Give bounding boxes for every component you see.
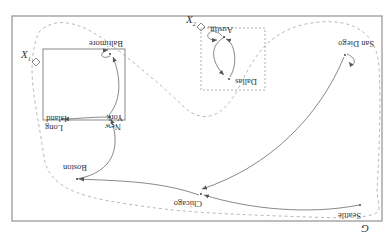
- node-dallas[interactable]: [228, 78, 230, 80]
- outer-frame: [12, 16, 382, 221]
- edge-austin-dallas: [214, 37, 225, 75]
- diamond-icon: [32, 58, 40, 66]
- graph-title: G: [361, 223, 369, 235]
- label-dallas: Dallas: [235, 77, 257, 87]
- label-island: Island: [45, 114, 67, 124]
- label-seattle: Seattle: [338, 211, 361, 221]
- node-baltimore[interactable]: [109, 53, 111, 55]
- edge-baltimore-self: [102, 50, 110, 57]
- edge-sandiego-self: [347, 54, 354, 64]
- label-baltimore: Baltimore: [89, 39, 123, 49]
- marker-x1: X1: [20, 48, 40, 66]
- edge-newyork-longisland: [64, 117, 110, 119]
- edge-newyork-baltimore: [109, 57, 119, 115]
- marker-x1-label: X1: [20, 48, 31, 62]
- node-austin[interactable]: [223, 36, 225, 38]
- node-chicago[interactable]: [200, 193, 202, 195]
- node-boston[interactable]: [76, 178, 78, 180]
- label-york: York: [106, 113, 123, 123]
- label-new: New: [104, 122, 121, 132]
- edge-chicago-boston: [79, 179, 199, 195]
- node-san-diego[interactable]: [344, 54, 346, 56]
- diagram-canvas: G X2 X1 Seattle Chicago Boston New: [0, 0, 389, 237]
- node-seattle[interactable]: [359, 204, 361, 206]
- edge-sandiego-chicago: [202, 57, 344, 189]
- label-san-diego: San Diego: [338, 39, 374, 49]
- edge-dallas-austin: [226, 39, 235, 77]
- graph-svg: G X2 X1 Seattle Chicago Boston New: [0, 0, 389, 237]
- label-austin: Austin: [210, 25, 233, 35]
- label-boston: Boston: [62, 163, 87, 173]
- edge-seattle-chicago: [204, 195, 359, 210]
- label-long: Long: [44, 123, 63, 133]
- marker-x2-label: X2: [185, 13, 196, 27]
- label-chicago: Chicago: [174, 199, 202, 209]
